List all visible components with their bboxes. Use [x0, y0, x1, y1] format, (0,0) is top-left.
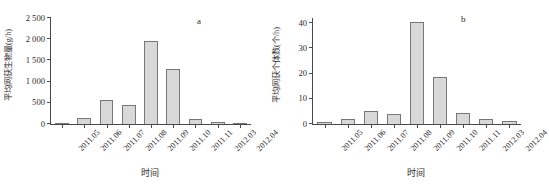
y-axis-tick-a: 2 000 [47, 38, 51, 39]
chart-panel-b: 平均网获个体数(个/h) b 2011.052011.062011.072011… [268, 0, 537, 186]
y-axis-tick-b: 10 [309, 98, 313, 99]
bar-cell [313, 18, 336, 124]
y-axis-tick-label-b: 40 [298, 17, 307, 29]
x-axis-tick-label: 2011.10 [188, 128, 213, 153]
x-axis-tick-label: 2011.09 [432, 128, 457, 153]
chart-panel-a: 平均网获生物量(g/h) a 2011.052011.062011.072011… [0, 0, 268, 186]
x-axis-tick-label: 2011.11 [210, 128, 235, 153]
x-axis-tick-label: 2011.06 [99, 128, 124, 153]
x-axis-tick-label: 2011.06 [362, 128, 387, 153]
bar-series-a [51, 18, 251, 124]
bar-cell [429, 18, 452, 124]
bar-cell [118, 18, 140, 124]
x-axis-tick-label: 2011.09 [166, 128, 191, 153]
x-axis-tick-label: 2011.05 [339, 128, 364, 153]
y-axis-tick-label-b: 30 [298, 42, 307, 54]
x-axis-tick-label: 2012.03 [501, 128, 526, 153]
x-axis-tick-label: 2011.11 [478, 128, 503, 153]
bar-cell [359, 18, 382, 124]
y-axis-tick-label-a: 2 500 [26, 12, 45, 24]
bar [100, 100, 114, 124]
bar [144, 41, 158, 124]
y-axis-tick-label-a: 1 500 [26, 54, 45, 66]
bar-cell [95, 18, 117, 124]
bar-cell [498, 18, 521, 124]
bar-cell [184, 18, 206, 124]
plot-area-b: 2011.052011.062011.072011.082011.092011.… [312, 18, 521, 125]
x-axis-tick-label: 2012.04 [524, 128, 549, 153]
x-axis-tick-label: 2011.10 [455, 128, 480, 153]
x-axis-tick-label: 2011.07 [121, 128, 146, 153]
y-axis-tick-b: 20 [309, 73, 313, 74]
bar [410, 22, 424, 124]
bar-cell [73, 18, 95, 124]
bar-cell [405, 18, 428, 124]
y-axis-tick-label-a: 0 [41, 118, 45, 130]
y-axis-tick-label-a: 500 [32, 96, 45, 108]
x-axis-tick-label: 2011.07 [385, 128, 410, 153]
x-axis-title-a: 时间 [50, 166, 250, 179]
y-axis-title-a: 平均网获生物量(g/h) [0, 0, 14, 130]
bar [122, 105, 136, 125]
x-axis-tick-labels-b: 2011.052011.062011.072011.082011.092011.… [313, 124, 521, 164]
bar-cell [382, 18, 405, 124]
y-axis-tick-b: 40 [309, 22, 313, 23]
bar-cell [51, 18, 73, 124]
bar-cell [475, 18, 498, 124]
y-axis-tick-label-b: 0 [303, 118, 307, 130]
x-axis-tick-labels-a: 2011.052011.062011.072011.082011.092011.… [51, 124, 251, 164]
x-axis-title-b: 时间 [312, 166, 520, 179]
y-axis-tick-label-a: 1 000 [26, 75, 45, 87]
bar [166, 69, 180, 124]
y-axis-tick-a: 500 [47, 102, 51, 103]
bar-cell [140, 18, 162, 124]
bar-cell [452, 18, 475, 124]
bar-cell [207, 18, 229, 124]
x-axis-tick-label: 2011.08 [409, 128, 434, 153]
bar-cell [162, 18, 184, 124]
y-axis-tick-a: 1 500 [47, 59, 51, 60]
y-axis-tick-b: 0 [309, 123, 313, 124]
bar-cell [336, 18, 359, 124]
x-axis-tick-label: 2012.03 [232, 128, 257, 153]
bar [433, 77, 447, 124]
y-axis-title-b: 平均网获个体数(个/h) [268, 0, 282, 130]
bar [364, 111, 378, 124]
bar-cell [229, 18, 251, 124]
y-axis-tick-a: 0 [47, 123, 51, 124]
y-axis-tick-label-a: 2 000 [26, 33, 45, 45]
y-axis-title-b-text: 平均网获个体数(个/h) [269, 27, 281, 103]
y-axis-tick-label-b: 20 [298, 67, 307, 79]
bar [387, 114, 401, 124]
bar [456, 113, 470, 124]
x-axis-tick-label: 2011.08 [143, 128, 168, 153]
y-axis-tick-a: 2 500 [47, 17, 51, 18]
plot-area-a: 2011.052011.062011.072011.082011.092011.… [50, 18, 251, 125]
x-axis-tick-label: 2011.05 [77, 128, 102, 153]
bar-series-b [313, 18, 521, 124]
y-axis-title-a-text: 平均网获生物量(g/h) [1, 29, 13, 101]
y-axis-tick-b: 30 [309, 47, 313, 48]
y-axis-tick-label-b: 10 [298, 92, 307, 104]
y-axis-tick-a: 1 000 [47, 81, 51, 82]
